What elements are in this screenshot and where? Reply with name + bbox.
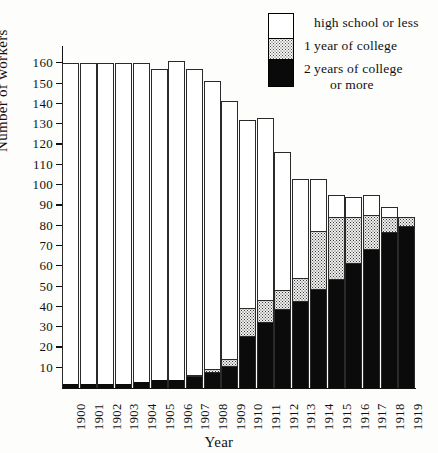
y-tick-90 [56, 204, 62, 205]
y-tick-110 [56, 164, 62, 165]
bar-1916 [345, 197, 362, 388]
x-tick-label-1903: 1903 [128, 403, 141, 430]
y-tick-label-140: 140 [33, 97, 53, 110]
plot-area [62, 46, 416, 389]
x-axis-title: Year [0, 434, 438, 451]
x-tick-label-1914: 1914 [323, 403, 336, 430]
y-tick-100 [56, 184, 62, 185]
x-tick-label-1916: 1916 [359, 403, 372, 430]
y-tick-40 [56, 306, 62, 307]
bar-segment-black-1904 [134, 382, 149, 388]
x-tick-label-1912: 1912 [288, 403, 301, 430]
y-tick-label-20: 20 [39, 340, 53, 353]
bar-segment-black-1907 [187, 377, 202, 387]
bar-1909 [221, 101, 238, 387]
x-tick-label-1917: 1917 [376, 403, 389, 430]
y-tick-label-120: 120 [33, 137, 53, 150]
y-tick-50 [56, 286, 62, 287]
bar-segment-black-1914 [311, 290, 326, 387]
bar-segment-dotted-1919 [399, 217, 414, 227]
bar-segment-black-1901 [81, 384, 96, 388]
bar-segment-black-1917 [364, 250, 379, 388]
y-tick-label-100: 100 [33, 178, 53, 191]
bar-1915 [328, 195, 345, 388]
bar-1907 [186, 69, 203, 388]
bar-1906 [168, 61, 185, 388]
x-axis-line [62, 388, 416, 389]
x-tick-label-1915: 1915 [341, 403, 354, 430]
x-tick-label-1901: 1901 [93, 403, 106, 430]
bar-1917 [363, 195, 380, 388]
x-tick-label-1902: 1902 [111, 403, 124, 430]
y-tick-label-90: 90 [39, 198, 53, 211]
bar-segment-black-1906 [169, 380, 184, 388]
x-tick-label-1900: 1900 [75, 403, 88, 430]
bar-segment-black-1918 [382, 233, 397, 387]
bar-segment-black-1903 [116, 384, 131, 388]
x-tick-label-1907: 1907 [199, 403, 212, 430]
bar-segment-black-1910 [240, 337, 255, 388]
y-tick-130 [56, 123, 62, 124]
bar-segment-dotted-1915 [329, 217, 344, 280]
x-tick-label-1905: 1905 [164, 403, 177, 430]
y-tick-70 [56, 245, 62, 246]
bar-1910 [239, 120, 256, 388]
bars-container [62, 47, 416, 388]
bar-1919 [398, 217, 415, 388]
bar-segment-black-1916 [346, 264, 361, 388]
y-tick-label-150: 150 [33, 77, 53, 90]
y-tick-label-60: 60 [39, 259, 53, 272]
bar-segment-black-1908 [205, 373, 220, 387]
x-tick-label-1904: 1904 [146, 403, 159, 430]
y-tick-20 [56, 346, 62, 347]
y-tick-label-130: 130 [33, 117, 53, 130]
y-tick-10 [56, 367, 62, 368]
x-tick-label-1918: 1918 [394, 403, 407, 430]
y-tick-label-40: 40 [39, 300, 53, 313]
bar-segment-dotted-1911 [258, 300, 273, 322]
y-axis-labels: 160150140130120110100908070605040302010 [0, 46, 53, 389]
y-tick-60 [56, 265, 62, 266]
legend-label-0: high school or less [314, 15, 419, 30]
y-tick-120 [56, 143, 62, 144]
y-tick-label-10: 10 [39, 361, 53, 374]
bar-1912 [274, 152, 291, 387]
y-tick-80 [56, 225, 62, 226]
bar-segment-dotted-1913 [293, 278, 308, 302]
bar-segment-dotted-1907 [187, 375, 202, 377]
bar-1913 [292, 179, 309, 388]
bar-1908 [204, 81, 221, 387]
bar-1901 [80, 63, 97, 388]
bar-1918 [381, 207, 398, 388]
x-tick-label-1906: 1906 [182, 403, 195, 430]
bar-segment-dotted-1909 [222, 359, 237, 367]
stacked-bar-chart: high school or less 1year of college 2ye… [0, 0, 438, 453]
bar-segment-black-1909 [222, 367, 237, 387]
bar-segment-dotted-1916 [346, 217, 361, 264]
y-tick-label-80: 80 [39, 219, 53, 232]
bar-segment-dotted-1918 [382, 217, 397, 233]
x-axis-labels: 1900190119021903190419051906190719081909… [62, 392, 416, 434]
y-tick-label-70: 70 [39, 239, 53, 252]
y-tick-label-110: 110 [33, 158, 53, 171]
x-tick-label-1908: 1908 [217, 403, 230, 430]
bar-segment-black-1919 [399, 227, 414, 387]
bar-1904 [133, 63, 150, 388]
bar-segment-dotted-1914 [311, 231, 326, 290]
bar-1905 [151, 69, 168, 388]
bar-segment-black-1902 [98, 384, 113, 388]
bar-segment-dotted-1912 [275, 290, 290, 310]
y-tick-label-50: 50 [39, 280, 53, 293]
bar-1900 [62, 63, 79, 388]
y-tick-label-30: 30 [39, 320, 53, 333]
bar-segment-black-1905 [152, 380, 167, 388]
bar-1903 [115, 63, 132, 388]
bar-segment-black-1900 [63, 384, 78, 388]
x-tick-label-1909: 1909 [235, 403, 248, 430]
legend-swatch-white [269, 14, 293, 38]
bar-segment-black-1911 [258, 323, 273, 388]
y-tick-150 [56, 83, 62, 84]
bar-1911 [257, 118, 274, 388]
bar-segment-black-1912 [275, 310, 290, 387]
bar-segment-black-1913 [293, 302, 308, 387]
